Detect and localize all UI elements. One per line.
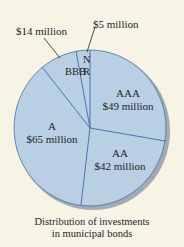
bbb-value-label: $14 million [16, 25, 68, 37]
chart-caption: Distribution of investments in municipal… [0, 216, 184, 240]
bbb-leader-line [44, 38, 60, 58]
aa-value-label: $42 million [94, 160, 146, 172]
aa-name-label: AA [112, 147, 128, 159]
aaa-name-label: AAA [116, 87, 140, 99]
caption-line-1: Distribution of investments [0, 216, 184, 228]
aaa-value-label: $49 million [102, 100, 154, 112]
pie-chart: $14 million $5 million BBB N R AAA $49 m… [0, 0, 184, 247]
nr-value-label: $5 million [93, 18, 139, 30]
a-name-label: A [48, 120, 56, 132]
nr-leader-line [87, 27, 95, 52]
nr-slice-label-r: R [83, 66, 90, 77]
nr-slice-label-n: N [83, 54, 91, 65]
caption-line-2: in municipal bonds [0, 228, 184, 240]
a-value-label: $65 million [26, 133, 78, 145]
